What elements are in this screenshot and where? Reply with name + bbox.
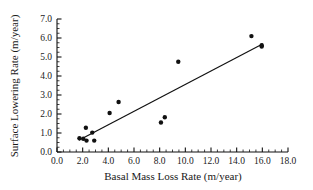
x-tick-label: 8.0 <box>154 156 166 166</box>
x-tick-label: 10.0 <box>177 156 194 166</box>
scatter-plot-svg: Surface Lowering Rate (m/year) Basal Mas… <box>0 0 313 190</box>
y-axis-title-group: Surface Lowering Rate (m/year) <box>8 14 21 157</box>
data-point <box>249 34 253 38</box>
y-tick-label: 0.0 <box>40 147 52 157</box>
trend-line <box>79 44 263 141</box>
chart-figure: Surface Lowering Rate (m/year) Basal Mas… <box>0 0 313 190</box>
x-tick-label: 6.0 <box>128 156 140 166</box>
data-point <box>84 125 88 129</box>
data-point <box>116 100 120 104</box>
x-tick-label: 0.0 <box>51 156 63 166</box>
data-point <box>90 130 94 134</box>
x-tick-label: 2.0 <box>77 156 89 166</box>
regression-line <box>79 44 263 141</box>
data-point <box>84 138 88 142</box>
x-axis-ticks: 0.02.04.06.08.010.012.014.016.018.0 <box>51 148 297 167</box>
y-tick-label: 5.0 <box>40 52 52 62</box>
data-point <box>159 120 163 124</box>
y-axis-ticks: 0.01.02.03.04.05.06.07.0 <box>40 14 61 157</box>
data-point <box>107 111 111 115</box>
data-point <box>92 138 96 142</box>
data-point <box>163 115 167 119</box>
data-point <box>176 60 180 64</box>
y-tick-label: 6.0 <box>40 33 52 43</box>
x-tick-label: 18.0 <box>280 156 297 166</box>
y-tick-label: 4.0 <box>40 71 52 81</box>
y-tick-label: 2.0 <box>40 109 52 119</box>
x-tick-label: 14.0 <box>228 156 245 166</box>
x-tick-label: 12.0 <box>203 156 220 166</box>
y-tick-label: 7.0 <box>40 14 52 24</box>
y-tick-label: 3.0 <box>40 90 52 100</box>
data-point <box>259 44 263 48</box>
data-point <box>77 136 81 140</box>
x-tick-label: 4.0 <box>102 156 114 166</box>
y-tick-label: 1.0 <box>40 128 52 138</box>
x-axis-title-group: Basal Mass Loss Rate (m/year) <box>104 170 242 183</box>
y-axis-title: Surface Lowering Rate (m/year) <box>8 14 21 157</box>
x-tick-label: 16.0 <box>254 156 271 166</box>
x-axis-title: Basal Mass Loss Rate (m/year) <box>104 170 242 183</box>
